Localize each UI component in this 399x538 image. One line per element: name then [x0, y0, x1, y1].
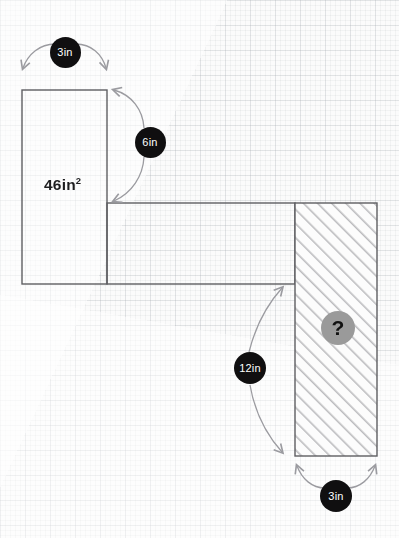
geometry-figure: [0, 0, 399, 538]
area-label: 46in2: [44, 176, 81, 194]
area-label-exponent: 2: [76, 175, 81, 186]
unknown-area-marker[interactable]: ?: [321, 311, 355, 345]
dimension-badge-top-width[interactable]: 3in: [50, 37, 81, 68]
left-height-arrow-up: [114, 90, 144, 128]
dimension-badge-top-width-label: 3in: [57, 46, 72, 58]
top-width-arrow-right: [76, 44, 106, 68]
dimension-badge-bottom-width-label: 3in: [328, 490, 343, 502]
dimension-badge-left-height-label: 6in: [142, 136, 157, 148]
unknown-area-marker-label: ?: [331, 316, 344, 340]
dimension-badge-bottom-width[interactable]: 3in: [320, 480, 352, 512]
bottom-width-arrow-right: [347, 466, 375, 488]
worksheet-canvas: 46in2 3in 6in 12in 3in ?: [0, 0, 399, 538]
dimension-badge-right-height[interactable]: 12in: [234, 352, 266, 384]
dimension-badge-left-height[interactable]: 6in: [135, 127, 166, 158]
right-height-arrow-up: [249, 288, 282, 352]
right-height-arrow-down: [250, 385, 282, 452]
horizontal-bar-rectangle: [107, 203, 295, 284]
bottom-width-arrow-left: [297, 466, 325, 488]
left-height-arrow-down: [114, 157, 144, 201]
area-label-value: 46in: [44, 176, 76, 193]
dimension-badge-right-height-label: 12in: [239, 362, 261, 374]
